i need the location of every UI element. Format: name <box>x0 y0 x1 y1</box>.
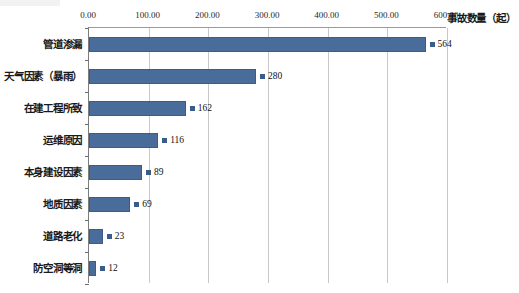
x-tick-label: 300.00 <box>255 10 280 20</box>
x-axis-tick-labels: 0.00100.00200.00300.00400.00500.00600.00 <box>88 10 446 24</box>
x-tick-label: 200.00 <box>195 10 220 20</box>
bar-value-label: 116 <box>162 135 184 145</box>
bar <box>89 133 158 148</box>
category-label: 天气因素（暴雨） <box>4 68 82 83</box>
series-marker-icon <box>162 138 167 143</box>
category-label: 防空洞等洞 <box>33 260 82 275</box>
bar-value-text: 69 <box>142 199 152 209</box>
bar-value-text: 116 <box>170 135 184 145</box>
gridline <box>447 28 448 283</box>
bar-value-label: 89 <box>146 167 164 177</box>
bar-value-text: 12 <box>108 263 118 273</box>
x-tick-label: 100.00 <box>135 10 160 20</box>
bar <box>89 165 142 180</box>
series-marker-icon <box>100 266 105 271</box>
bar-value-text: 89 <box>154 167 164 177</box>
bar-chart: 事故数量（起） 0.00100.00200.00300.00400.00500.… <box>0 0 519 293</box>
bar-row: 12 <box>89 261 446 276</box>
x-tick-label: 0.00 <box>80 10 96 20</box>
bar-value-label: 12 <box>100 263 118 273</box>
bar <box>89 229 103 244</box>
series-marker-icon <box>134 202 139 207</box>
category-label: 本身建设因素 <box>24 164 82 179</box>
category-label: 地质因素 <box>43 196 82 211</box>
plot-area: 56428016211689692312 <box>88 27 446 283</box>
bar-value-label: 564 <box>430 39 452 49</box>
category-label: 管道渗漏 <box>43 36 82 51</box>
bar-value-text: 280 <box>268 71 282 81</box>
x-tick-label: 600.00 <box>434 10 459 20</box>
series-marker-icon <box>260 74 265 79</box>
x-tick-label: 400.00 <box>314 10 339 20</box>
bar <box>89 261 96 276</box>
scan-artifact-band <box>0 0 60 6</box>
bar-row: 116 <box>89 133 446 148</box>
x-tick-label: 500.00 <box>374 10 399 20</box>
bar-value-text: 23 <box>115 231 125 241</box>
series-marker-icon <box>146 170 151 175</box>
category-tick <box>85 284 89 285</box>
bar <box>89 37 426 52</box>
series-marker-icon <box>430 42 435 47</box>
bar-row: 280 <box>89 69 446 84</box>
bar-value-text: 564 <box>438 39 452 49</box>
bar-series: 56428016211689692312 <box>89 28 446 283</box>
bar <box>89 197 130 212</box>
bar-value-label: 69 <box>134 199 152 209</box>
bar <box>89 101 186 116</box>
bar-value-label: 23 <box>107 231 125 241</box>
series-marker-icon <box>107 234 112 239</box>
bar-row: 23 <box>89 229 446 244</box>
series-marker-icon <box>190 106 195 111</box>
bar-row: 564 <box>89 37 446 52</box>
bar-value-label: 162 <box>190 103 212 113</box>
bar-row: 162 <box>89 101 446 116</box>
bar-row: 69 <box>89 197 446 212</box>
category-label: 运维原因 <box>43 132 82 147</box>
category-axis-labels: 管道渗漏天气因素（暴雨）在建工程所致运维原因本身建设因素地质因素道路老化防空洞等… <box>0 27 85 283</box>
bar-value-text: 162 <box>198 103 212 113</box>
bar <box>89 69 256 84</box>
bar-row: 89 <box>89 165 446 180</box>
bar-value-label: 280 <box>260 71 282 81</box>
category-label: 道路老化 <box>43 228 82 243</box>
category-label: 在建工程所致 <box>24 100 82 115</box>
